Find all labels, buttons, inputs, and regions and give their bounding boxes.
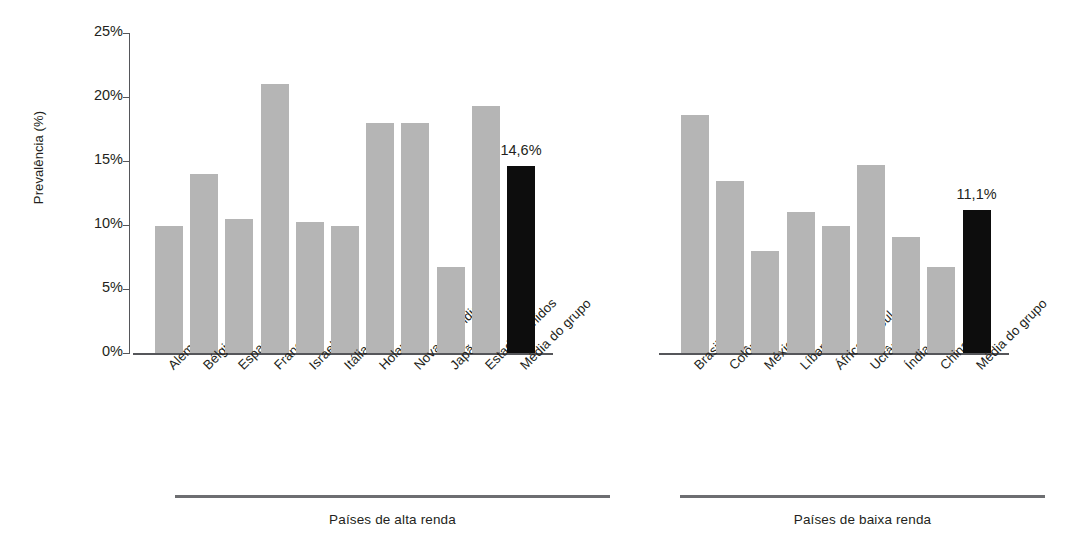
- y-axis-tick-label: 10%: [63, 215, 123, 231]
- bar-group-average: [507, 166, 535, 353]
- group-rule: [680, 495, 1045, 498]
- y-axis-tick: [123, 289, 130, 290]
- bar: [401, 123, 429, 353]
- y-axis-line: [129, 33, 130, 353]
- bar: [892, 237, 920, 353]
- bar: [822, 226, 850, 353]
- bar: [437, 267, 465, 353]
- y-axis-tick-label: 5%: [63, 279, 123, 295]
- bar: [681, 115, 709, 353]
- y-axis-tick: [123, 161, 130, 162]
- y-axis-tick: [123, 353, 130, 354]
- y-axis-tick: [123, 225, 130, 226]
- bar-value-label: 14,6%: [485, 142, 557, 158]
- bar: [225, 219, 253, 353]
- bar: [331, 226, 359, 353]
- bar-chart: Prevalência (%) 0%5%10%15%20%25% Alemanh…: [0, 0, 1081, 558]
- bar-group-average: [963, 210, 991, 353]
- bar: [787, 212, 815, 353]
- bar: [927, 267, 955, 353]
- y-axis-title: Prevalência (%): [31, 58, 46, 258]
- bar: [366, 123, 394, 353]
- bar: [857, 165, 885, 353]
- bar-value-label: 11,1%: [941, 186, 1013, 202]
- y-axis-tick: [123, 97, 130, 98]
- bar: [261, 84, 289, 353]
- group-rule: [175, 495, 610, 498]
- bar: [751, 251, 779, 353]
- y-axis-tick-label: 25%: [63, 23, 123, 39]
- bar: [155, 226, 183, 353]
- y-axis-tick-label: 20%: [63, 87, 123, 103]
- bar: [296, 222, 324, 353]
- bar: [190, 174, 218, 353]
- y-axis-tick: [123, 33, 130, 34]
- group-label: Países de alta renda: [175, 512, 610, 527]
- group-label: Países de baixa renda: [680, 512, 1045, 527]
- bar: [716, 181, 744, 353]
- y-axis-tick-label: 15%: [63, 151, 123, 167]
- y-axis-tick-label: 0%: [63, 343, 123, 359]
